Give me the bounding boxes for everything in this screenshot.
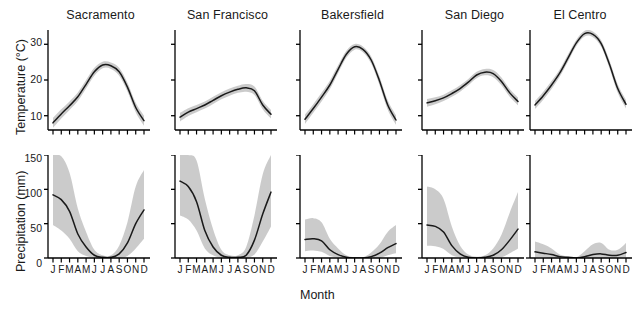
panel-title-bakersfield: Bakersfield (300, 8, 405, 22)
climate-figure: Sacramento San Francisco Bakersfield San… (0, 0, 636, 311)
precipitation-plot-san-diego (409, 155, 526, 270)
xtick-month: D (139, 264, 149, 275)
x-axis-label-month: Month (300, 288, 335, 302)
panel-title-san-diego: San Diego (422, 8, 527, 22)
panel-title-san-francisco: San Francisco (175, 8, 280, 22)
panel-title-el-centro: El Centro (530, 8, 630, 22)
precipitation-plot-bakersfield (287, 155, 404, 270)
precipitation-plot-el-centro (517, 155, 634, 270)
precipitation-plot-sacramento (35, 155, 152, 270)
panel-title-sacramento: Sacramento (48, 8, 153, 22)
temperature-plot-san-diego (409, 30, 526, 142)
xtick-month: D (621, 264, 631, 275)
temperature-plot-el-centro (517, 30, 634, 142)
xtick-month: D (266, 264, 276, 275)
temperature-plot-bakersfield (287, 30, 404, 142)
xtick-month: D (391, 264, 401, 275)
temperature-plot-sacramento (35, 30, 152, 142)
precipitation-plot-san-francisco (162, 155, 279, 270)
temperature-plot-san-francisco (162, 30, 279, 142)
